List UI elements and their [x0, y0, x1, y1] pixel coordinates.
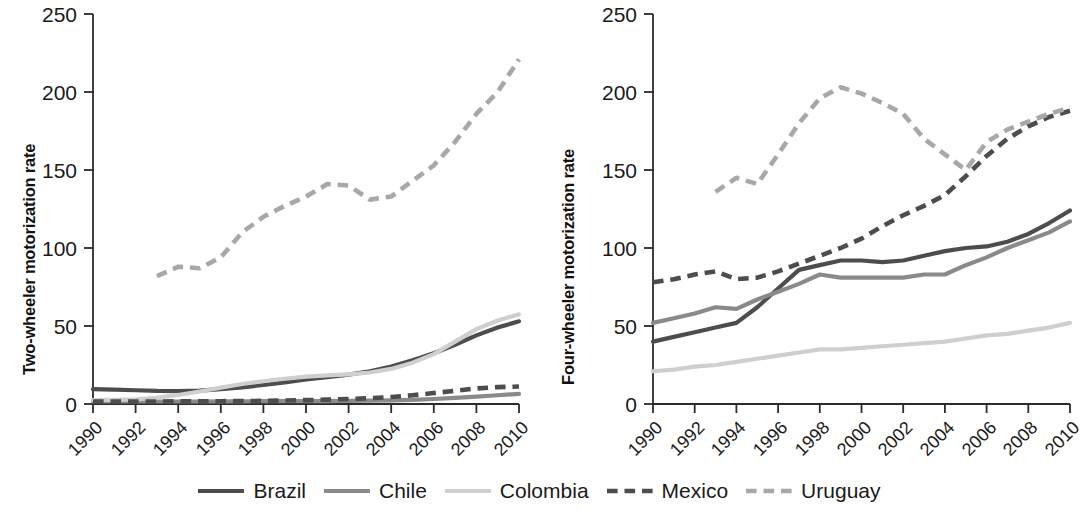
- left-y-tick-label: 200: [17, 82, 77, 103]
- legend-label-brazil: Brazil: [253, 480, 306, 501]
- left-y-tick-label: 0: [17, 394, 77, 415]
- right-series-uruguay: [716, 87, 1070, 192]
- legend: BrazilChileColombiaMexicoUruguay: [0, 470, 1078, 511]
- chart-panel-two-wheeler: Two-wheeler motorization rate 0501001502…: [0, 0, 539, 470]
- left-series-brazil: [93, 321, 519, 391]
- right-y-tick-label: 100: [577, 238, 637, 259]
- legend-label-chile: Chile: [379, 480, 427, 501]
- right-series-mexico: [653, 111, 1070, 283]
- right-y-tick-label: 200: [577, 82, 637, 103]
- right-y-tick-label: 0: [577, 394, 637, 415]
- legend-label-mexico: Mexico: [662, 480, 729, 501]
- right-y-axis-title: Four-wheeler motorization rate: [559, 149, 578, 385]
- legend-swatch-colombia-icon: [444, 484, 492, 498]
- left-series-colombia: [93, 314, 519, 400]
- legend-item-uruguay[interactable]: Uruguay: [745, 480, 880, 501]
- right-series-colombia: [653, 323, 1070, 371]
- chart-panel-four-wheeler: Four-wheeler motorization rate 050100150…: [539, 0, 1078, 470]
- legend-swatch-uruguay-icon: [745, 484, 793, 498]
- legend-swatch-mexico-icon: [606, 484, 654, 498]
- right-y-tick-label: 150: [577, 160, 637, 181]
- legend-label-colombia: Colombia: [500, 480, 589, 501]
- legend-item-brazil[interactable]: Brazil: [197, 480, 306, 501]
- left-y-tick-label: 50: [17, 316, 77, 337]
- legend-swatch-brazil-icon: [197, 484, 245, 498]
- right-y-tick-label: 50: [577, 316, 637, 337]
- left-y-tick-label: 250: [17, 4, 77, 25]
- right-y-tick-label: 250: [577, 4, 637, 25]
- left-plot-svg: [0, 0, 539, 470]
- left-y-tick-label: 150: [17, 160, 77, 181]
- legend-swatch-chile-icon: [323, 484, 371, 498]
- legend-item-colombia[interactable]: Colombia: [444, 480, 589, 501]
- left-y-tick-label: 100: [17, 238, 77, 259]
- left-series-uruguay: [157, 59, 519, 276]
- legend-item-mexico[interactable]: Mexico: [606, 480, 729, 501]
- legend-label-uruguay: Uruguay: [801, 480, 880, 501]
- legend-item-chile[interactable]: Chile: [323, 480, 427, 501]
